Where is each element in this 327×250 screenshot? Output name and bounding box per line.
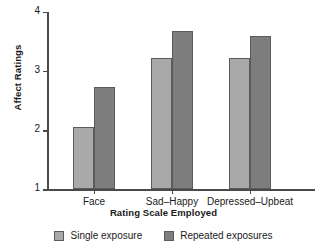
y-axis-line [47, 12, 49, 190]
legend-label-single-exposure: Single exposure [70, 230, 142, 242]
y-tick-label-1: 1 [34, 182, 40, 194]
chart-legend: Single exposure Repeated exposures [0, 230, 327, 242]
x-axis-title: Rating Scale Employed [0, 207, 327, 218]
y-tick-3: 3 [43, 71, 47, 73]
y-tick-label-2: 2 [34, 123, 40, 135]
legend-item-single-exposure: Single exposure [54, 230, 142, 242]
x-tick-depressed-upbeat [250, 190, 252, 194]
y-tick-2: 2 [43, 130, 47, 132]
legend-swatch-single-exposure [54, 231, 64, 241]
legend-label-repeated-exposures: Repeated exposures [180, 230, 272, 242]
x-tick-sad-happy [172, 190, 174, 194]
legend-swatch-repeated-exposures [164, 231, 174, 241]
x-tick-face [94, 190, 96, 194]
y-tick-1: 1 [43, 189, 47, 191]
bar-depressed-upbeat-repeated [250, 36, 271, 189]
y-tick-label-4: 4 [34, 5, 40, 17]
bar-chart-figure: Affect Ratings 4 3 2 1 Face Sad–Happy De [0, 0, 327, 250]
bar-face-single [73, 127, 94, 189]
bar-sad-happy-single [151, 58, 172, 189]
y-tick-label-3: 3 [34, 64, 40, 76]
bar-depressed-upbeat-single [229, 58, 250, 189]
legend-item-repeated-exposures: Repeated exposures [164, 230, 272, 242]
bar-face-repeated [94, 87, 115, 189]
bar-sad-happy-repeated [172, 31, 193, 189]
plot-area: 4 3 2 1 Face Sad–Happy Depressed–Upbeat [47, 12, 315, 190]
x-axis-line [47, 189, 315, 191]
y-axis-title: Affect Ratings [12, 28, 23, 128]
y-tick-4: 4 [43, 12, 47, 14]
